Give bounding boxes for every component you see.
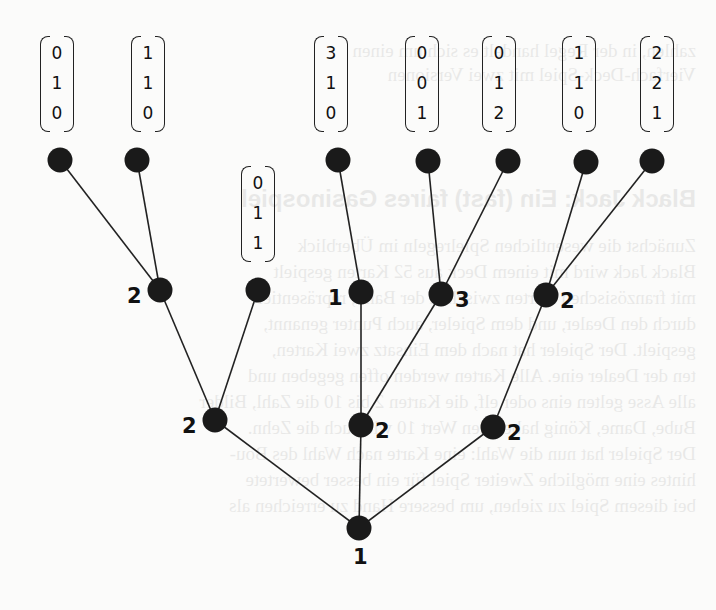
payoff-value: 1: [417, 98, 428, 128]
payoff-value: 1: [143, 38, 154, 68]
root-node: [347, 516, 372, 541]
payoff-vector: 011: [241, 166, 275, 262]
payoff-value: 2: [652, 68, 663, 98]
player-label: 2: [182, 414, 197, 438]
decision-node: [349, 280, 374, 305]
player-label: 2: [127, 284, 142, 308]
payoff-vector: 001: [405, 36, 439, 132]
payoff-value: 0: [326, 98, 337, 128]
payoff-value: 1: [574, 68, 585, 98]
payoff-values: 110: [131, 38, 165, 128]
game-tree-diagram: [0, 0, 716, 610]
payoff-value: 0: [494, 38, 505, 68]
leaf-node: [496, 149, 521, 174]
payoff-vector: 110: [562, 36, 596, 132]
payoff-value: 1: [652, 98, 663, 128]
leaf-node: [416, 149, 441, 174]
payoff-value: 0: [143, 98, 154, 128]
payoff-value: 1: [253, 228, 264, 258]
tree-edge: [137, 160, 160, 290]
payoff-value: 0: [52, 38, 63, 68]
payoff-value: 1: [253, 198, 264, 228]
tree-edge: [60, 160, 160, 290]
tree-edge: [215, 290, 258, 420]
payoff-vector: 310: [314, 36, 348, 132]
tree-edge: [441, 161, 508, 294]
payoff-vector: 010: [40, 36, 74, 132]
payoff-value: 0: [253, 168, 264, 198]
tree-edge: [361, 294, 441, 425]
payoff-value: 0: [417, 68, 428, 98]
payoff-value: 2: [652, 38, 663, 68]
player-label: 1: [353, 545, 368, 569]
tree-edge: [215, 420, 359, 528]
payoff-value: 1: [494, 68, 505, 98]
leaf-node: [640, 149, 665, 174]
payoff-value: 1: [326, 68, 337, 98]
payoff-values: 010: [40, 38, 74, 128]
player-label: 2: [375, 419, 390, 443]
payoff-value: 0: [417, 38, 428, 68]
player-label: 1: [328, 286, 343, 310]
tree-edges: [60, 160, 652, 528]
tree-edge: [428, 161, 441, 294]
decision-node: [203, 408, 228, 433]
payoff-values: 110: [562, 38, 596, 128]
tree-edge: [359, 425, 361, 528]
payoff-values: 011: [241, 168, 275, 258]
leaf-node: [125, 148, 150, 173]
tree-edge: [493, 295, 546, 427]
decision-node: [246, 278, 271, 303]
payoff-value: 3: [326, 38, 337, 68]
decision-node: [429, 282, 454, 307]
leaf-node: [574, 150, 599, 175]
payoff-value: 1: [574, 38, 585, 68]
payoff-value: 2: [494, 98, 505, 128]
decision-node: [148, 278, 173, 303]
payoff-vector: 221: [640, 36, 674, 132]
tree-edge: [160, 290, 215, 420]
decision-node: [481, 415, 506, 440]
payoff-values: 001: [405, 38, 439, 128]
tree-edge: [546, 162, 586, 295]
leaf-node: [326, 148, 351, 173]
payoff-value: 1: [143, 68, 154, 98]
payoff-value: 0: [52, 98, 63, 128]
player-label: 3: [455, 288, 470, 312]
tree-edge: [546, 161, 652, 295]
payoff-values: 221: [640, 38, 674, 128]
decision-node: [534, 283, 559, 308]
payoff-value: 1: [52, 68, 63, 98]
payoff-vector: 110: [131, 36, 165, 132]
player-label: 2: [507, 421, 522, 445]
payoff-values: 310: [314, 38, 348, 128]
payoff-value: 0: [574, 98, 585, 128]
payoff-values: 012: [482, 38, 516, 128]
tree-edge: [338, 160, 361, 292]
leaf-node: [48, 148, 73, 173]
decision-node: [349, 413, 374, 438]
payoff-vector: 012: [482, 36, 516, 132]
player-label: 2: [560, 289, 575, 313]
